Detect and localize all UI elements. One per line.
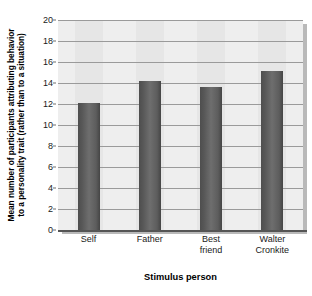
- x-tick-label-line: friend: [181, 245, 242, 256]
- y-tick-mark: [53, 83, 56, 84]
- x-axis-line: [58, 230, 307, 232]
- x-axis-title: Stimulus person: [58, 272, 303, 282]
- y-axis-title: Mean number of participants attributing …: [0, 0, 32, 250]
- x-axis-ticks: SelfFatherBestfriendWalterCronkite: [58, 234, 303, 264]
- y-tick-mark: [53, 125, 56, 126]
- y-tick-mark: [53, 230, 56, 231]
- bar: [78, 103, 100, 230]
- y-axis-ticks: 02468101214161820: [30, 0, 56, 250]
- plot-area: [58, 20, 303, 230]
- y-tick-mark: [53, 209, 56, 210]
- bar: [139, 81, 161, 230]
- y-tick-label: 10: [43, 120, 53, 130]
- gridline: [58, 62, 303, 63]
- y-tick-label: 12: [43, 99, 53, 109]
- y-tick-label: 14: [43, 78, 53, 88]
- gridline: [58, 41, 303, 42]
- y-tick-mark: [53, 41, 56, 42]
- x-tick-label: Bestfriend: [181, 234, 242, 256]
- y-tick-mark: [53, 104, 56, 105]
- x-tick-label-line: Walter: [242, 234, 303, 245]
- y-tick-mark: [53, 167, 56, 168]
- bar: [200, 87, 222, 230]
- bar-chart-figure: Mean number of participants attributing …: [0, 0, 312, 296]
- y-tick-mark: [53, 188, 56, 189]
- bar: [261, 71, 283, 230]
- gridline: [58, 20, 303, 21]
- x-tick-label: Father: [119, 234, 180, 245]
- x-tick-label-line: Cronkite: [242, 245, 303, 256]
- x-tick-label-line: Self: [58, 234, 119, 245]
- x-tick-label-line: Best: [181, 234, 242, 245]
- y-tick-label: 20: [43, 15, 53, 25]
- y-tick-label: 18: [43, 36, 53, 46]
- y-tick-label: 16: [43, 57, 53, 67]
- y-axis-title-line-1: Mean number of participants attributing …: [6, 28, 16, 221]
- y-tick-mark: [53, 62, 56, 63]
- x-tick-label: WalterCronkite: [242, 234, 303, 256]
- y-tick-mark: [53, 146, 56, 147]
- x-tick-label-line: Father: [119, 234, 180, 245]
- x-tick-label: Self: [58, 234, 119, 245]
- y-tick-mark: [53, 20, 56, 21]
- y-axis-title-line-2: to a personality trait (rather than to a…: [16, 33, 26, 217]
